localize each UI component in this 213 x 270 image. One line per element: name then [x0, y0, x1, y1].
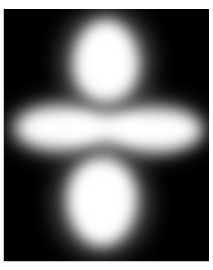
upper-lobe — [74, 21, 138, 101]
torus-center — [64, 115, 150, 141]
image-frame — [3, 9, 209, 262]
